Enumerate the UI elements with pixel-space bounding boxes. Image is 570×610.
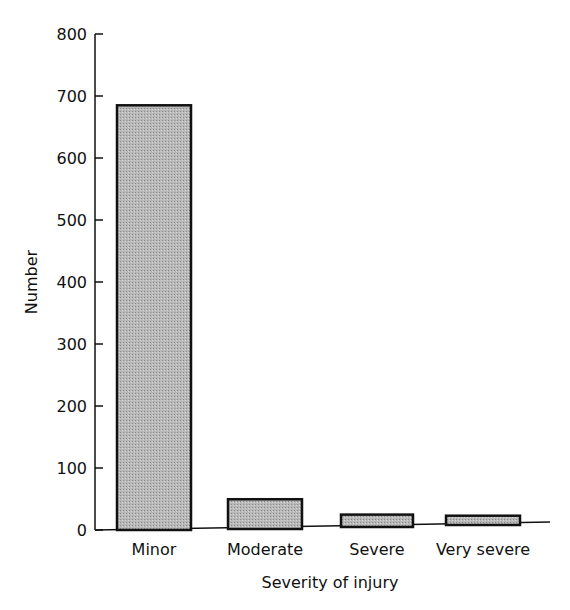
chart-container: 0100200300400500600700800NumberMinorMode… <box>0 0 570 610</box>
y-tick-label: 500 <box>56 211 87 230</box>
x-tick-label: Very severe <box>436 540 530 559</box>
x-tick-label: Minor <box>132 540 177 559</box>
x-tick-label: Moderate <box>227 540 303 559</box>
y-tick-label: 200 <box>56 397 87 416</box>
bar-moderate <box>228 499 302 529</box>
x-tick-label: Severe <box>349 540 404 559</box>
y-tick-label: 100 <box>56 459 87 478</box>
bar-minor <box>117 105 191 530</box>
x-axis-label: Severity of injury <box>262 573 399 592</box>
y-tick-label: 300 <box>56 335 87 354</box>
y-tick-label: 400 <box>56 273 87 292</box>
bar-chart: 0100200300400500600700800NumberMinorMode… <box>0 0 570 610</box>
y-axis-label: Number <box>22 249 41 314</box>
y-tick-label: 700 <box>56 87 87 106</box>
y-tick-label: 0 <box>77 521 87 540</box>
bar-severe <box>341 515 413 527</box>
bar-very-severe <box>446 516 520 525</box>
y-tick-label: 600 <box>56 149 87 168</box>
y-tick-label: 800 <box>56 25 87 44</box>
